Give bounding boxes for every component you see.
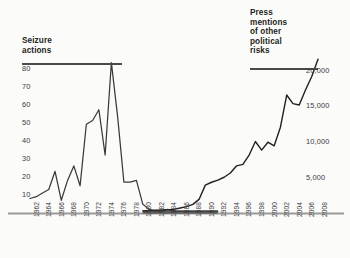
right-axis-tick-20000: 20,000	[306, 66, 330, 75]
x-axis-tick-1974: 1974	[108, 202, 115, 217]
x-axis-tick-2004: 2004	[296, 202, 303, 217]
x-axis-tick-1964: 1964	[45, 202, 52, 217]
left-axis-tick-70: 70	[22, 82, 31, 91]
right-axis-tick-5000: 5,000	[306, 173, 325, 182]
x-axis-tick-1970: 1970	[83, 202, 90, 217]
dual-axis-line-chart: Seizure actions Press mentions of other …	[0, 0, 350, 258]
left-axis-tick-40: 40	[22, 136, 31, 145]
x-axis-tick-2000: 2000	[271, 202, 278, 217]
right-axis-tick-15000: 15,000	[306, 101, 330, 110]
x-axis-tick-1996: 1996	[245, 202, 252, 217]
x-axis-tick-1976: 1976	[120, 202, 127, 217]
left-axis-tick-60: 60	[22, 100, 31, 109]
x-axis-tick-1998: 1998	[258, 202, 265, 217]
x-axis-tick-1988: 1988	[195, 202, 202, 217]
x-axis-tick-1986: 1986	[183, 202, 190, 217]
left-axis-tick-10: 10	[22, 190, 31, 199]
x-axis-tick-2008: 2008	[321, 202, 328, 217]
right-axis-tick-10000: 10,000	[306, 137, 330, 146]
x-axis-tick-1962: 1962	[33, 202, 40, 217]
x-axis-tick-1992: 1992	[220, 202, 227, 217]
x-axis-tick-1982: 1982	[158, 202, 165, 217]
series-line-seizure-actions	[30, 63, 218, 212]
x-axis-tick-1984: 1984	[170, 202, 177, 217]
x-axis-tick-2002: 2002	[283, 202, 290, 217]
x-axis-tick-1966: 1966	[58, 202, 65, 217]
left-axis-tick-30: 30	[22, 154, 31, 163]
x-axis-tick-1990: 1990	[208, 202, 215, 217]
series-line-press-mentions	[143, 59, 318, 211]
x-axis-tick-1980: 1980	[145, 202, 152, 217]
left-axis-tick-20: 20	[22, 172, 31, 181]
left-axis-title-rule	[22, 63, 122, 65]
x-axis-tick-1972: 1972	[95, 202, 102, 217]
right-axis-title: Press mentions of other political risks	[250, 8, 287, 56]
left-axis-tick-50: 50	[22, 118, 31, 127]
x-axis-tick-2006: 2006	[308, 202, 315, 217]
x-axis-tick-1968: 1968	[70, 202, 77, 217]
x-axis-tick-1978: 1978	[133, 202, 140, 217]
x-axis-tick-1994: 1994	[233, 202, 240, 217]
left-axis-tick-80: 80	[22, 64, 31, 73]
left-axis-title: Seizure actions	[22, 36, 52, 55]
chart-plot-area	[0, 0, 350, 258]
